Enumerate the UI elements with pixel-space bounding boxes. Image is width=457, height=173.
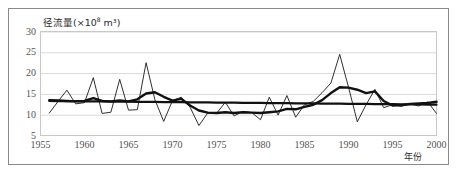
- y-tick-30: 30: [10, 26, 36, 37]
- series-moving-average: [49, 87, 436, 113]
- x-axis-title: 年份: [404, 150, 422, 163]
- x-tick-2000: 2000: [427, 139, 447, 150]
- x-tick-1975: 1975: [207, 139, 227, 150]
- plot-area-border: [41, 32, 437, 136]
- x-tick-1970: 1970: [163, 139, 183, 150]
- x-tick-1955: 1955: [31, 139, 51, 150]
- runoff-line-chart: 径流量(×108 m³) 年份 51015202530 195519601965…: [0, 0, 457, 173]
- series-linear-trend: [49, 101, 436, 105]
- y-axis-title: 径流量(×108 m³): [43, 15, 120, 29]
- y-tick-25: 25: [10, 46, 36, 57]
- unit-exponent: 8: [97, 16, 101, 23]
- x-tick-1985: 1985: [295, 139, 315, 150]
- y-tick-20: 20: [10, 67, 36, 78]
- x-tick-1980: 1980: [251, 139, 271, 150]
- y-tick-10: 10: [10, 109, 36, 120]
- chart-screenshot: 径流量(×108 m³) 年份 51015202530 195519601965…: [0, 0, 457, 173]
- x-tick-1995: 1995: [383, 139, 403, 150]
- x-tick-1965: 1965: [119, 139, 139, 150]
- x-tick-1960: 1960: [75, 139, 95, 150]
- x-tick-1990: 1990: [339, 139, 359, 150]
- y-tick-15: 15: [10, 88, 36, 99]
